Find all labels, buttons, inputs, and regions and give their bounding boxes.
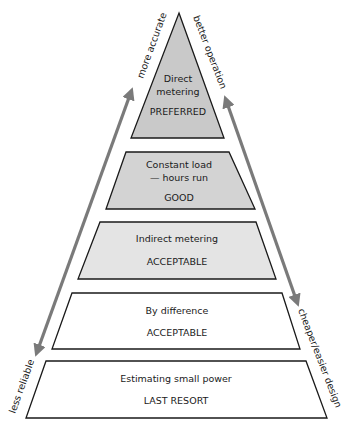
tier-4-line-1: By difference <box>146 305 209 316</box>
tier-3-rating: ACCEPTABLE <box>147 256 208 267</box>
tier-5-line-1: Estimating small power <box>120 373 232 384</box>
tier-1-rating: PREFERRED <box>150 106 206 117</box>
tier-5-rating: LAST RESORT <box>144 395 209 406</box>
tier-2-line-1: Constant load <box>146 159 212 170</box>
metering-hierarchy-pyramid: Direct metering PREFERRED Constant load … <box>0 0 351 430</box>
tier-1-line-2: metering <box>156 86 199 97</box>
tier-3-line-1: Indirect metering <box>136 233 218 244</box>
tier-by-difference: By difference ACCEPTABLE <box>52 293 300 349</box>
tier-4-rating: ACCEPTABLE <box>147 327 208 338</box>
tier-1-line-1: Direct <box>164 73 193 84</box>
tier-indirect-metering: Indirect metering ACCEPTABLE <box>78 222 276 279</box>
tier-constant-load: Constant load — hours run GOOD <box>106 152 255 209</box>
tier-2-line-2: — hours run <box>150 172 208 183</box>
tier-2-rating: GOOD <box>164 192 194 203</box>
tier-estimating-small-power: Estimating small power LAST RESORT <box>26 361 327 418</box>
